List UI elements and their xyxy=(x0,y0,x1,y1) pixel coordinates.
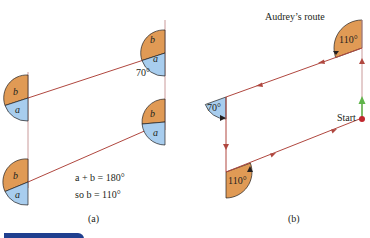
direction-arrow-east-2-icon xyxy=(331,129,337,134)
label-b-left-bottom: b xyxy=(13,170,18,181)
figure-b: Audrey’s route 110° 70° 110° Start xyxy=(205,11,365,225)
caption-b: (b) xyxy=(288,213,300,225)
direction-arrow-north-icon xyxy=(359,58,365,64)
direction-arrow-east-1-icon xyxy=(270,153,276,158)
angle-70-left-label: 70° xyxy=(207,102,221,113)
direction-arrow-south-icon xyxy=(223,144,229,150)
caption-a: (a) xyxy=(88,213,99,225)
start-direction-arrow-icon xyxy=(359,96,366,104)
route-leg-west xyxy=(226,48,362,97)
label-a-left-top: a xyxy=(15,104,20,115)
parallel-lines-diagram: b a 70° b a b a b a a + b = 180° so b = … xyxy=(0,0,370,238)
start-label: Start xyxy=(337,112,356,123)
equation-sum: a + b = 180° xyxy=(75,172,125,183)
angle-110-bottom-left-label: 110° xyxy=(228,175,247,186)
footer-bar xyxy=(4,233,84,238)
start-point xyxy=(359,116,365,122)
label-b-top-right: b xyxy=(150,34,155,45)
equation-result: so b = 110° xyxy=(75,189,121,200)
route-title: Audrey’s route xyxy=(265,11,325,22)
angle-70-label: 70° xyxy=(136,67,150,78)
angle-pair-right-bottom xyxy=(142,99,165,145)
angle-110-top-right-label: 110° xyxy=(339,34,358,45)
label-a-top-right: a xyxy=(153,53,158,64)
figure-a: b a 70° b a b a b a a + b = 180° so b = … xyxy=(3,20,165,225)
label-a-right-bottom: a xyxy=(153,127,158,138)
label-b-right-bottom: b xyxy=(150,108,155,119)
label-a-left-bottom: a xyxy=(15,189,20,200)
route-leg-east xyxy=(226,118,362,172)
label-b-left-top: b xyxy=(13,86,18,97)
